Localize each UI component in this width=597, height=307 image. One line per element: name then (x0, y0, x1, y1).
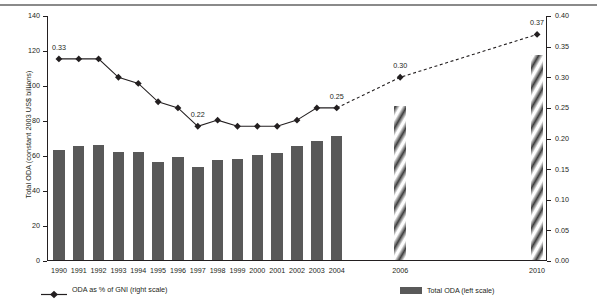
y-axis-left-tick (43, 261, 47, 262)
legend-label-total-oda: Total ODA (left scale) (427, 286, 495, 295)
y-axis-left-tick-label: 120 (0, 47, 40, 54)
line-marker-2003 (313, 104, 320, 111)
line-marker-2010 (534, 31, 541, 38)
y-axis-right-tick (547, 47, 551, 48)
legend-line-diamond-icon (41, 285, 67, 294)
y-axis-right-tick-label: 0.30 (555, 74, 595, 81)
y-axis-right-tick (547, 139, 551, 140)
y-axis-right-tick (547, 230, 551, 231)
line-series-oda-pct-gni (47, 16, 547, 261)
y-axis-right-tick-label: 0.15 (555, 166, 595, 173)
top-divider-rule (0, 4, 597, 6)
y-axis-right-tick-label: 0.25 (555, 104, 595, 111)
y-axis-left-tick-label: 20 (0, 222, 40, 229)
y-axis-left-tick-label: 80 (0, 117, 40, 124)
y-axis-right-tick (547, 261, 551, 262)
data-label-2006: 0.30 (387, 62, 413, 69)
line-marker-1999 (234, 123, 241, 130)
y-axis-right-tick-label: 0.10 (555, 196, 595, 203)
legend-bar-swatch-icon (400, 287, 422, 294)
x-axis-label-2006: 2006 (384, 267, 416, 274)
line-marker-1991 (75, 55, 82, 62)
line-marker-2000 (254, 123, 261, 130)
line-segment-projected (337, 34, 537, 108)
y-axis-right-tick (547, 200, 551, 201)
line-marker-1998 (214, 117, 221, 124)
legend-item-oda-pct-gni: ODA as % of GNI (right scale) (41, 285, 167, 294)
y-axis-left-tick-label: 60 (0, 152, 40, 159)
y-axis-right-tick-label: 0.40 (555, 12, 595, 19)
line-marker-1990 (56, 55, 63, 62)
data-label-2010: 0.37 (524, 19, 550, 26)
y-axis-right-tick (547, 77, 551, 78)
y-axis-right-tick (547, 108, 551, 109)
y-axis-right-tick-label: 0.20 (555, 135, 595, 142)
data-label-1990: 0.33 (46, 44, 72, 51)
data-label-2004: 0.25 (324, 93, 350, 100)
x-axis-label-2010: 2010 (521, 267, 553, 274)
y-axis-right-tick (547, 169, 551, 170)
y-axis-left-tick-label: 140 (0, 12, 40, 19)
data-label-1997: 0.22 (185, 111, 211, 118)
line-marker-2001 (274, 123, 281, 130)
legend-item-total-oda: Total ODA (left scale) (400, 286, 495, 295)
x-axis-label-2004: 2004 (321, 267, 353, 274)
y-axis-left-tick-label: 40 (0, 187, 40, 194)
y-axis-left-tick-label: 0 (0, 257, 40, 264)
chart-legend: ODA as % of GNI (right scale) Total ODA … (0, 285, 597, 301)
legend-label-oda-pct-gni: ODA as % of GNI (right scale) (72, 285, 167, 294)
y-axis-right-tick (547, 16, 551, 17)
y-axis-right-tick-label: 0.00 (555, 257, 595, 264)
y-axis-left-tick-label: 100 (0, 82, 40, 89)
y-axis-right-tick-label: 0.05 (555, 227, 595, 234)
line-marker-2006 (397, 74, 404, 81)
y-axis-right-tick-label: 0.35 (555, 43, 595, 50)
plot-area: 020406080100120140 0.000.050.100.150.200… (47, 16, 547, 261)
chart-figure: Total ODA (constant 2003 US$ billions) O… (0, 0, 597, 307)
line-marker-2002 (294, 117, 301, 124)
line-marker-2004 (333, 104, 340, 111)
